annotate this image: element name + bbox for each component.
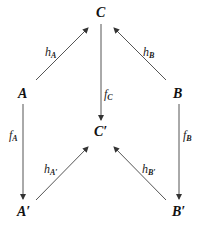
node-B: B	[172, 86, 182, 101]
commutative-diagram: C A B C′ A′ B′ hA hB fC fA fB hA′ hB′	[0, 0, 202, 226]
node-C-prime: C′	[94, 124, 107, 139]
label-hB: hB	[143, 45, 155, 60]
node-B-prime: B′	[171, 204, 185, 219]
arrow-hB	[114, 28, 166, 80]
node-C: C	[96, 5, 106, 20]
arrow-hBprime	[114, 147, 166, 200]
label-fC: fC	[104, 87, 113, 102]
label-hBprime: hB′	[142, 162, 156, 177]
label-fA: fA	[9, 128, 18, 143]
label-hAprime: hA′	[44, 162, 58, 177]
arrow-hA	[36, 28, 88, 80]
label-hA: hA	[45, 45, 57, 60]
node-A-prime: A′	[16, 204, 30, 219]
node-A: A	[17, 86, 27, 101]
label-fB: fB	[183, 128, 192, 143]
